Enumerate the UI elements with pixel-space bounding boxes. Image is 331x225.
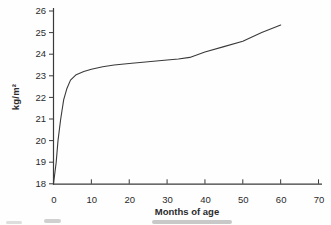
y-tick-label: 23 bbox=[35, 70, 46, 81]
y-tick-label: 20 bbox=[35, 135, 46, 146]
x-tick-label: 10 bbox=[87, 194, 98, 205]
y-tick-label: 22 bbox=[35, 92, 46, 103]
plot-area: 181920212223242526010203040506070 bbox=[0, 0, 331, 225]
scan-artifact bbox=[152, 220, 232, 224]
y-tick-label: 18 bbox=[35, 178, 46, 189]
y-tick-label: 21 bbox=[35, 113, 46, 124]
x-tick-label: 40 bbox=[200, 194, 211, 205]
data-curve bbox=[54, 25, 281, 184]
x-tick-label: 20 bbox=[124, 194, 135, 205]
x-tick-label: 50 bbox=[238, 194, 249, 205]
y-tick-label: 25 bbox=[35, 27, 46, 38]
y-tick-label: 19 bbox=[35, 156, 46, 167]
x-tick-label: 0 bbox=[51, 194, 56, 205]
y-tick-label: 26 bbox=[35, 5, 46, 16]
x-tick-label: 30 bbox=[162, 194, 173, 205]
y-axis-label: kg/m² bbox=[10, 84, 21, 110]
x-axis-label: Months of age bbox=[155, 206, 219, 217]
growth-line-chart: 181920212223242526010203040506070 kg/m² … bbox=[0, 0, 331, 225]
y-tick-label: 24 bbox=[35, 48, 46, 59]
scan-artifact bbox=[44, 219, 61, 223]
x-tick-label: 60 bbox=[276, 194, 287, 205]
scan-artifact bbox=[6, 221, 22, 224]
x-tick-label: 70 bbox=[314, 194, 325, 205]
